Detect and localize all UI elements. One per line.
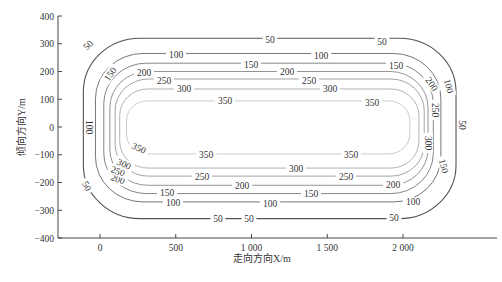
contour-label: 350 — [341, 150, 361, 160]
contour-label: 300 — [286, 164, 306, 174]
contour-label: 100 — [260, 199, 280, 209]
x-axis-ticks: 05001 0001 5002 000 — [98, 234, 414, 253]
svg-text:100: 100 — [169, 50, 184, 60]
svg-text:100: 100 — [263, 199, 278, 209]
contour-label: 150 — [436, 155, 451, 177]
x-tick-label: 0 — [98, 243, 103, 253]
contour-label: 200 — [232, 181, 252, 191]
y-tick-label: 200 — [40, 67, 55, 77]
contour-label: 150 — [241, 60, 261, 70]
contour-label: 300 — [320, 84, 340, 94]
y-tick-label: 100 — [40, 95, 55, 105]
svg-text:300: 300 — [323, 84, 338, 94]
contour-label: 200 — [277, 67, 297, 77]
contour-label: 250 — [430, 100, 440, 120]
contour-label: 250 — [192, 172, 212, 182]
contour-label: 50 — [457, 118, 467, 133]
contour-label: 100 — [163, 198, 183, 208]
svg-text:200: 200 — [280, 67, 295, 77]
contour-chart: 5050505050505050100100100100100100100150… — [0, 0, 502, 282]
x-axis-title: 走向方向X/m — [233, 252, 291, 264]
y-axis-title: 倾向方向Y/m — [15, 98, 27, 156]
contour-line-150 — [104, 63, 434, 193]
y-tick-label: −200 — [34, 178, 54, 188]
contour-label: 250 — [154, 76, 174, 86]
svg-text:300: 300 — [177, 84, 192, 94]
svg-text:100: 100 — [314, 51, 329, 61]
x-tick-label: 1 000 — [241, 243, 263, 253]
svg-text:200: 200 — [137, 68, 152, 78]
contour-label: 300 — [423, 133, 433, 153]
svg-text:350: 350 — [344, 150, 359, 160]
contour-label: 150 — [157, 188, 177, 198]
contour-label: 50 — [242, 214, 257, 224]
svg-text:50: 50 — [244, 214, 254, 224]
svg-text:250: 250 — [339, 172, 354, 182]
svg-text:350: 350 — [365, 98, 380, 108]
contour-label: 50 — [79, 177, 95, 195]
svg-text:150: 150 — [437, 158, 450, 175]
svg-text:50: 50 — [265, 35, 275, 45]
svg-text:100: 100 — [166, 198, 181, 208]
svg-text:200: 200 — [386, 180, 401, 190]
svg-text:50: 50 — [213, 214, 223, 224]
svg-text:50: 50 — [457, 120, 467, 130]
svg-text:50: 50 — [377, 37, 387, 47]
contour-label: 350 — [362, 98, 382, 108]
contour-line-250 — [115, 79, 424, 176]
contour-line-350 — [127, 101, 410, 154]
svg-text:150: 150 — [389, 61, 404, 71]
y-tick-label: 400 — [40, 12, 55, 22]
svg-text:300: 300 — [289, 164, 304, 174]
y-tick-label: 0 — [49, 123, 54, 133]
contour-label: 200 — [383, 180, 403, 190]
svg-text:200: 200 — [235, 181, 250, 191]
svg-text:100: 100 — [84, 120, 94, 135]
svg-text:350: 350 — [218, 96, 233, 106]
contour-label: 350 — [196, 150, 216, 160]
svg-text:50: 50 — [389, 213, 399, 223]
svg-text:250: 250 — [430, 103, 440, 118]
contour-label: 100 — [84, 117, 94, 137]
x-tick-label: 2 000 — [392, 243, 414, 253]
contour-label: 100 — [311, 51, 331, 61]
svg-text:150: 150 — [244, 60, 259, 70]
contour-label: 300 — [174, 84, 194, 94]
contour-label: 250 — [336, 172, 356, 182]
contour-label: 150 — [301, 189, 321, 199]
contour-label: 50 — [211, 214, 226, 224]
contour-label: 250 — [299, 76, 319, 86]
x-tick-label: 500 — [169, 243, 184, 253]
contour-label: 50 — [375, 37, 390, 47]
svg-text:150: 150 — [160, 188, 175, 198]
y-tick-label: −300 — [34, 206, 54, 216]
contour-label: 50 — [387, 213, 402, 223]
y-tick-label: −400 — [34, 234, 54, 244]
svg-text:300: 300 — [423, 136, 433, 151]
contour-label: 200 — [134, 68, 154, 78]
y-tick-label: 300 — [40, 39, 55, 49]
svg-text:350: 350 — [199, 150, 214, 160]
contour-label: 100 — [166, 50, 186, 60]
svg-text:250: 250 — [195, 172, 210, 182]
contour-label: 50 — [263, 35, 278, 45]
x-tick-label: 1 500 — [317, 243, 339, 253]
contour-label: 350 — [215, 96, 235, 106]
svg-text:100: 100 — [406, 197, 421, 207]
svg-text:250: 250 — [302, 76, 317, 86]
contour-label: 50 — [79, 36, 97, 54]
svg-text:250: 250 — [157, 76, 172, 86]
contour-label: 100 — [403, 197, 423, 207]
svg-text:100: 100 — [442, 78, 455, 95]
svg-text:150: 150 — [304, 189, 319, 199]
contour-label: 150 — [386, 61, 406, 71]
contour-label: 350 — [128, 139, 151, 157]
y-tick-label: −100 — [34, 150, 54, 160]
